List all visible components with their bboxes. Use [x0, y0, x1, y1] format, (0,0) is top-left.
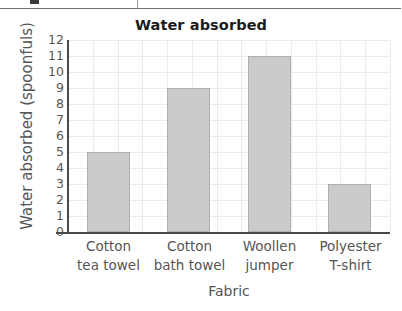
plot-area	[68, 40, 390, 232]
x-axis-category-label: Cottontea towel	[68, 237, 149, 274]
y-axis-tick-label: 12	[40, 34, 64, 47]
y-axis-line	[67, 40, 69, 233]
x-axis-category-label-line: Polyester	[319, 238, 381, 254]
toolbar-fragment-icon	[30, 0, 39, 4]
x-axis-title: Fabric	[68, 283, 390, 299]
x-axis-category-label-line: bath towel	[149, 256, 230, 275]
x-axis-line	[56, 232, 390, 234]
gridline-vertical	[217, 40, 218, 232]
gridline-horizontal	[68, 40, 390, 41]
y-axis-tick-label: 7	[40, 114, 64, 127]
y-axis-tick-label: 1	[40, 210, 64, 223]
toolbar-cell-right	[138, 0, 401, 9]
x-axis-category-label-line: jumper	[229, 256, 310, 275]
y-axis-title: Water absorbed (spoonfuls)	[18, 21, 36, 231]
y-axis-tick-label: 5	[40, 146, 64, 159]
gridline-vertical	[316, 40, 317, 232]
y-axis-tick-label: 4	[40, 162, 64, 175]
gridline-vertical	[390, 40, 391, 232]
gridline-horizontal	[68, 120, 390, 121]
y-axis-tick-label: 8	[40, 98, 64, 111]
x-axis-category-label: Woollenjumper	[229, 237, 310, 274]
y-axis-tick-label: 2	[40, 194, 64, 207]
chart-title: Water absorbed	[0, 17, 402, 33]
x-axis-category-label-line: Cotton	[86, 238, 131, 254]
bar[interactable]	[248, 56, 291, 232]
y-axis-tick-label: 10	[40, 66, 64, 79]
x-axis-category-label-line: Woollen	[243, 238, 296, 254]
x-axis-category-labels: Cottontea towelCottonbath towelWoollenju…	[68, 237, 390, 285]
y-axis-tick-labels: 1211109876543210	[38, 40, 64, 232]
toolbar-cell-left	[0, 0, 138, 9]
gridline-vertical	[241, 40, 242, 232]
gridline-vertical	[291, 40, 292, 232]
y-axis-tick-label: 3	[40, 178, 64, 191]
bar-chart-figure: Water absorbed Water absorbed (spoonfuls…	[0, 9, 402, 311]
y-axis-tick-label: 6	[40, 130, 64, 143]
x-axis-category-label-line: T-shirt	[310, 256, 391, 275]
bar[interactable]	[167, 88, 210, 232]
bar[interactable]	[328, 184, 371, 232]
gridline-horizontal	[68, 56, 390, 57]
gridline-horizontal	[68, 72, 390, 73]
x-axis-category-label: Cottonbath towel	[149, 237, 230, 274]
gridline-vertical	[142, 40, 143, 232]
gridline-horizontal	[68, 136, 390, 137]
bar[interactable]	[87, 152, 130, 232]
gridline-horizontal	[68, 88, 390, 89]
x-axis-category-label-line: Cotton	[167, 238, 212, 254]
y-axis-tick-label: 9	[40, 82, 64, 95]
top-toolbar-strip	[0, 0, 402, 9]
y-axis-tick-label: 11	[40, 50, 64, 63]
x-axis-category-label-line: tea towel	[68, 256, 149, 275]
x-axis-category-label: PolyesterT-shirt	[310, 237, 391, 274]
gridline-horizontal	[68, 104, 390, 105]
